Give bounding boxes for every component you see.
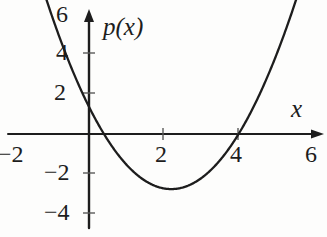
y-axis-tick-label-4: 4 <box>56 40 68 64</box>
x-axis-tick-label-6: 6 <box>305 142 317 166</box>
graph-figure: 6 4 2 −2 −4 −2 2 4 6 p(x) x <box>0 0 327 237</box>
parabola-curve <box>46 0 297 189</box>
x-axis-label: x <box>291 96 302 121</box>
y-axis-arrow-icon <box>84 9 94 22</box>
y-axis <box>83 9 95 228</box>
y-axis-tick-label-6: 6 <box>56 2 68 26</box>
x-axis-tick-label-4: 4 <box>230 142 242 166</box>
y-axis-tick-label-minus-2: −2 <box>44 160 70 184</box>
y-axis-tick-label-2: 2 <box>54 80 66 104</box>
x-axis-tick-label-2: 2 <box>155 142 167 166</box>
x-axis <box>8 128 324 140</box>
x-axis-arrow-icon <box>311 130 324 139</box>
function-label: p(x) <box>103 14 143 39</box>
x-axis-tick-label-minus-2: −2 <box>0 142 24 166</box>
y-axis-tick-label-minus-4: −4 <box>44 200 70 224</box>
